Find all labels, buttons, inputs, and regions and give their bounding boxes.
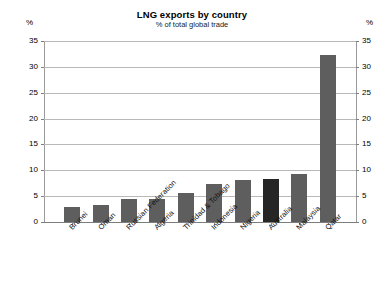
y-tick-mark-left-35 (41, 41, 44, 42)
y-tick-mark-right-0 (356, 222, 359, 223)
gridline-15 (44, 144, 356, 145)
plot-area (44, 41, 356, 222)
y-tick-mark-right-35 (356, 41, 359, 42)
y-tick-label-right-10: 10 (362, 166, 384, 174)
y-tick-mark-left-15 (41, 144, 44, 145)
y-tick-mark-right-15 (356, 144, 359, 145)
y-tick-label-left-5: 5 (14, 192, 38, 200)
chart-title: LNG exports by country (0, 9, 384, 20)
y-tick-label-right-15: 15 (362, 140, 384, 148)
y-tick-mark-left-30 (41, 67, 44, 68)
chart-title-block: LNG exports by country % of total global… (0, 9, 384, 30)
y-tick-label-left-25: 25 (14, 89, 38, 97)
y-tick-mark-right-10 (356, 170, 359, 171)
y-axis-unit-right: % (366, 18, 373, 27)
y-tick-mark-right-5 (356, 196, 359, 197)
y-tick-mark-right-30 (356, 67, 359, 68)
gridline-10 (44, 170, 356, 171)
y-tick-label-left-30: 30 (14, 63, 38, 71)
y-tick-mark-left-0 (41, 222, 44, 223)
y-tick-label-left-15: 15 (14, 140, 38, 148)
bar-qatar (320, 55, 336, 222)
y-tick-mark-left-25 (41, 93, 44, 94)
y-tick-mark-left-5 (41, 196, 44, 197)
gridline-30 (44, 67, 356, 68)
gridline-35 (44, 41, 356, 42)
y-tick-mark-left-10 (41, 170, 44, 171)
gridline-25 (44, 93, 356, 94)
y-tick-label-right-5: 5 (362, 192, 384, 200)
y-tick-label-right-0: 0 (362, 218, 384, 226)
lng-exports-bar-chart: LNG exports by country % of total global… (0, 0, 384, 303)
y-tick-label-right-25: 25 (362, 89, 384, 97)
y-tick-label-right-35: 35 (362, 37, 384, 45)
gridline-5 (44, 196, 356, 197)
y-tick-label-left-10: 10 (14, 166, 38, 174)
y-tick-mark-right-20 (356, 119, 359, 120)
y-tick-label-left-0: 0 (14, 218, 38, 226)
y-axis-unit-left: % (26, 18, 33, 27)
y-tick-mark-right-25 (356, 93, 359, 94)
y-tick-label-left-20: 20 (14, 115, 38, 123)
chart-subtitle: % of total global trade (0, 20, 384, 30)
gridline-20 (44, 119, 356, 120)
y-tick-label-left-35: 35 (14, 37, 38, 45)
y-tick-label-right-30: 30 (362, 63, 384, 71)
y-tick-label-right-20: 20 (362, 115, 384, 123)
y-tick-mark-left-20 (41, 119, 44, 120)
